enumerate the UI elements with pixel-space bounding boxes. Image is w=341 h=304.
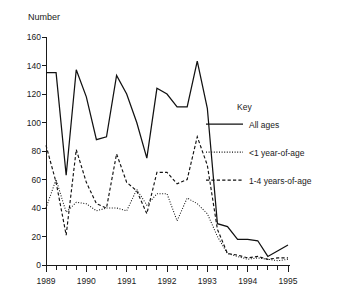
x-axis-tick-labels: 1989199019911992199319941995 xyxy=(37,276,298,286)
x-axis-tick-label: 1990 xyxy=(77,276,96,286)
y-axis-tick-label: 20 xyxy=(32,232,42,242)
x-axis-tick-label: 1993 xyxy=(198,276,217,286)
y-axis-tick-label: 160 xyxy=(27,32,41,42)
legend-label: <1 year-of-age xyxy=(249,148,305,158)
chart-figure: Number 020406080100120140160 19891990199… xyxy=(0,0,341,304)
x-axis-tick-marks xyxy=(46,265,288,272)
line-chart: Number 020406080100120140160 19891990199… xyxy=(0,0,341,304)
x-axis-tick-label: 1995 xyxy=(279,276,298,286)
chart-legend: All ages<1 year-of-age1-4 years-of-age xyxy=(206,120,312,186)
y-axis-tick-label: 40 xyxy=(32,203,42,213)
legend-title: Key xyxy=(237,102,252,112)
x-axis-tick-label: 1992 xyxy=(158,276,177,286)
y-axis-tick-label: 0 xyxy=(36,260,41,270)
y-axis-tick-labels: 020406080100120140160 xyxy=(27,32,41,270)
y-axis-tick-label: 140 xyxy=(27,61,41,71)
y-axis-tick-marks xyxy=(42,37,47,265)
series-line-1-year-of-age xyxy=(46,180,288,261)
y-axis-label: Number xyxy=(28,12,60,22)
legend-label: 1-4 years-of-age xyxy=(249,176,312,186)
y-axis-tick-label: 120 xyxy=(27,89,41,99)
y-axis-tick-label: 60 xyxy=(32,175,42,185)
x-axis-tick-label: 1989 xyxy=(37,276,56,286)
x-axis-tick-label: 1991 xyxy=(117,276,136,286)
y-axis-tick-label: 100 xyxy=(27,118,41,128)
x-axis-tick-label: 1994 xyxy=(238,276,257,286)
y-axis-tick-label: 80 xyxy=(32,146,42,156)
series-line-all-ages xyxy=(46,61,288,256)
chart-series-group xyxy=(46,61,288,261)
legend-label: All ages xyxy=(249,120,279,130)
